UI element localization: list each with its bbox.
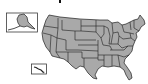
us-map <box>0 0 148 84</box>
continental-us <box>42 15 145 80</box>
alaska-inset <box>7 13 38 32</box>
top-mark <box>59 0 61 3</box>
hawaii-inset <box>32 64 47 74</box>
